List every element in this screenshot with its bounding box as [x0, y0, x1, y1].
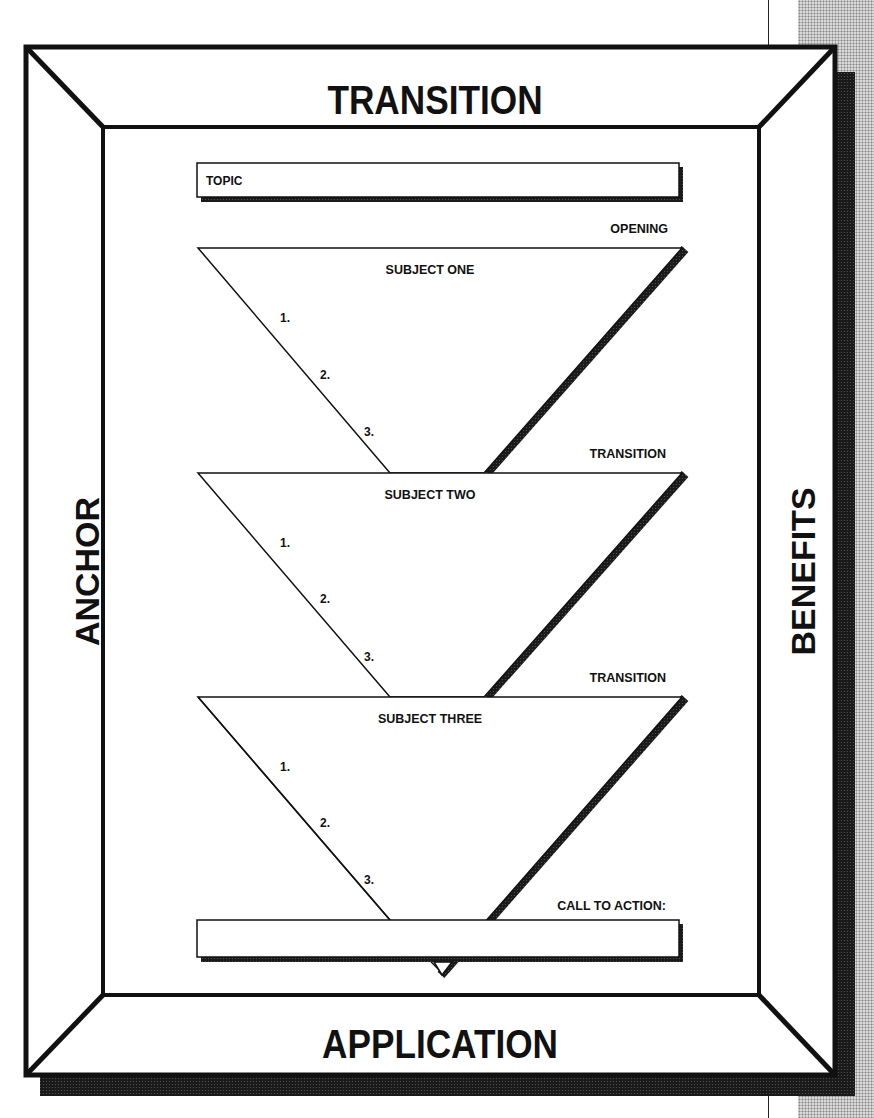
subject-one-point-2: 2.	[320, 368, 330, 382]
subject-three-point-3: 3.	[364, 873, 374, 887]
subject-two-point-3: 3.	[364, 650, 374, 664]
call-to-action-label: CALL TO ACTION:	[500, 899, 666, 913]
transition-label-2: TRANSITION	[540, 671, 666, 685]
subject-one-point-1: 1.	[280, 311, 290, 325]
subject-one-point-3: 3.	[364, 425, 374, 439]
topic-label: TOPIC	[206, 174, 242, 188]
topic-box	[197, 163, 679, 197]
frame-label-right: BENEFITS	[784, 472, 823, 672]
subject-three-point-1: 1.	[280, 760, 290, 774]
subject-two-point-2: 2.	[320, 592, 330, 606]
subject-three-label: SUBJECT THREE	[330, 712, 530, 726]
frame-shadow-right	[836, 72, 855, 1096]
frame-label-bottom: APPLICATION	[308, 1022, 572, 1067]
opening-label: OPENING	[560, 222, 668, 236]
frame-label-top: TRANSITION	[321, 78, 550, 123]
speech-frame-diagram	[0, 0, 874, 1118]
subject-two-point-1: 1.	[280, 536, 290, 550]
subject-two-label: SUBJECT TWO	[330, 488, 530, 502]
frame-label-left: ANCHOR	[68, 472, 107, 672]
transition-label-1: TRANSITION	[540, 447, 666, 461]
call-to-action-box	[197, 920, 679, 957]
subject-one-label: SUBJECT ONE	[330, 263, 530, 277]
frame-shadow-bottom	[40, 1075, 855, 1096]
subject-three-point-2: 2.	[320, 816, 330, 830]
